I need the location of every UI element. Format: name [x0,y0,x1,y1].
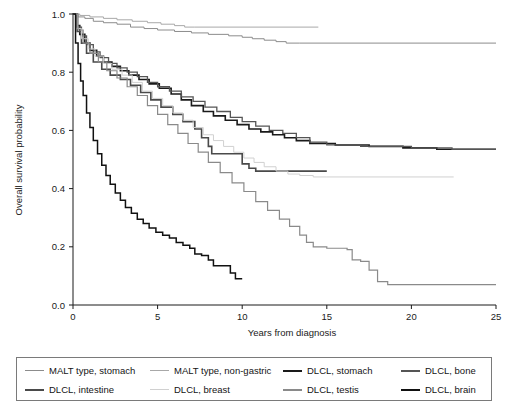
x-tick-label: 15 [322,311,333,322]
survival-curve [73,14,496,149]
kaplan-meier-plot: 0.00.20.40.60.81.0 0510152025 Overall su… [0,0,511,340]
legend-grid: MALT type, stomachMALT type, non-gastric… [17,358,491,399]
legend-line-swatch-icon [401,389,420,391]
legend-line-swatch-icon [150,389,169,390]
y-axis: 0.00.20.40.60.81.0 [52,9,73,311]
legend-item[interactable]: DLCL, bone [401,361,495,380]
y-tick-label: 0.4 [52,183,65,194]
x-tick-label: 10 [237,311,248,322]
y-axis-title: Overall survival probability [13,104,24,215]
legend-item[interactable]: MALT type, non-gastric [150,361,283,380]
x-tick-label: 5 [155,311,160,322]
legend-label: DLCL, stomach [307,366,372,376]
legend-line-swatch-icon [283,370,302,372]
legend-label: MALT type, stomach [49,366,135,376]
x-tick-label: 20 [406,311,417,322]
legend-line-swatch-icon [25,370,44,371]
plot-area: 0.00.20.40.60.81.0 0510152025 Overall su… [0,0,511,340]
survival-curve [73,14,496,285]
y-tick-label: 0.6 [52,125,65,136]
survival-curve [73,14,318,27]
legend-label: DLCL, breast [174,385,230,395]
legend-label: MALT type, non-gastric [174,366,271,376]
y-tick-label: 0.2 [52,241,65,252]
legend-item[interactable]: DLCL, intestine [25,380,150,399]
legend-item[interactable]: DLCL, testis [283,380,401,399]
survival-curve [73,14,327,171]
legend-label: DLCL, testis [307,385,359,395]
survival-curves [73,14,496,285]
legend-line-swatch-icon [283,389,302,391]
y-tick-label: 0.0 [52,300,65,311]
x-axis: 0510152025 [70,305,501,322]
legend-box: MALT type, stomachMALT type, non-gastric… [16,357,492,401]
legend-item[interactable]: DLCL, breast [150,380,283,399]
legend-line-swatch-icon [401,370,420,372]
x-axis-title: Years from diagnosis [248,327,337,338]
survival-curve [73,14,496,43]
survival-chart-figure: 0.00.20.40.60.81.0 0510152025 Overall su… [0,0,511,416]
y-tick-label: 0.8 [52,67,65,78]
legend-label: DLCL, bone [425,366,476,376]
x-tick-label: 25 [491,311,502,322]
survival-curve [73,14,496,149]
legend-label: DLCL, intestine [49,385,114,395]
legend-item[interactable]: DLCL, brain [401,380,495,399]
legend-line-swatch-icon [150,370,169,371]
y-tick-label: 1.0 [52,9,65,20]
x-tick-label: 0 [70,311,75,322]
legend-item[interactable]: MALT type, stomach [25,361,150,380]
legend-label: DLCL, brain [425,385,476,395]
legend-line-swatch-icon [25,389,44,391]
legend-item[interactable]: DLCL, stomach [283,361,401,380]
